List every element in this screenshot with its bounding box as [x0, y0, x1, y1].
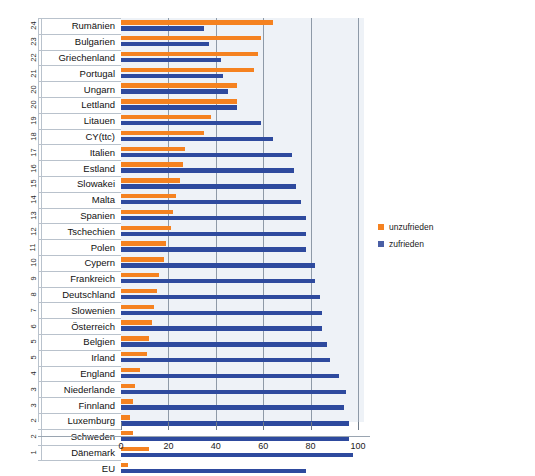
row-bars [121, 381, 535, 397]
bar-unzufrieden [121, 99, 237, 103]
category-label: Niederlande [44, 381, 118, 397]
bar-unzufrieden [121, 115, 211, 119]
x-tick-label-60: 60 [258, 441, 268, 451]
x-tick-20 [168, 422, 169, 430]
chart-rows: 24Rumänien23Bulgarien22Griechenland21Por… [0, 18, 535, 476]
rank-value: 4 [28, 371, 37, 375]
rank-value: 3 [28, 403, 37, 407]
chart-row: 2Luxemburg [0, 413, 535, 429]
rank-value: 17 [29, 148, 38, 156]
category-label: Litauen [44, 113, 118, 129]
row-bars [121, 176, 535, 192]
bar-zufrieden [121, 153, 292, 157]
chart-row: 3Niederlande [0, 381, 535, 397]
legend-label-unzufrieden: unzufrieden [389, 222, 433, 232]
category-label: Malta [44, 192, 118, 208]
rank-column-separator [41, 160, 42, 176]
bar-unzufrieden [121, 131, 204, 135]
row-bars [121, 445, 535, 461]
chart-row: 7Slowenien [0, 302, 535, 318]
row-bars [121, 97, 535, 113]
rank-column-separator [41, 113, 42, 129]
rank-column-separator [41, 81, 42, 97]
category-label: Slowenien [44, 302, 118, 318]
category-label: Spanien [44, 208, 118, 224]
rank-value: 15 [29, 180, 38, 188]
bar-zufrieden [121, 26, 204, 30]
rank-column-separator [41, 176, 42, 192]
bar-zufrieden [121, 405, 344, 409]
bar-unzufrieden [121, 368, 140, 372]
rank-cell: 24 [25, 18, 41, 34]
row-bars [121, 192, 535, 208]
bar-zufrieden [121, 200, 301, 204]
chart-row: 12Tschechien [0, 223, 535, 239]
rank-cell: 14 [25, 192, 41, 208]
category-label: Lettland [44, 97, 118, 113]
rank-column-separator [41, 50, 42, 66]
rank-value: 13 [29, 211, 38, 219]
chart-row: 21Portugal [0, 65, 535, 81]
rank-cell: 17 [25, 144, 41, 160]
rank-cell: 16 [25, 160, 41, 176]
rank-value: 2 [28, 435, 37, 439]
rank-column-separator [41, 223, 42, 239]
rank-value: 22 [29, 53, 38, 61]
rank-cell: 2 [25, 413, 41, 429]
bar-zufrieden [121, 358, 330, 362]
x-tick-100 [358, 422, 359, 430]
rank-cell: 22 [25, 50, 41, 66]
bar-zufrieden [121, 89, 228, 93]
rank-cell: 9 [25, 271, 41, 287]
x-tick-60 [263, 422, 264, 430]
legend-swatch-zufrieden-icon [378, 241, 384, 247]
chart-row: 19Litauen [0, 113, 535, 129]
row-bars [121, 350, 535, 366]
chart-row: 18CY(ttc) [0, 129, 535, 145]
rank-value: 19 [29, 117, 38, 125]
chart-row: 4England [0, 366, 535, 382]
rank-value: 23 [29, 38, 38, 46]
bar-unzufrieden [121, 431, 133, 435]
chart-row: 8Deutschland [0, 287, 535, 303]
chart-row: 23Bulgarien [0, 34, 535, 50]
bar-zufrieden [121, 279, 315, 283]
bar-zufrieden [121, 326, 322, 330]
bar-unzufrieden [121, 257, 164, 261]
rank-cell: 19 [25, 113, 41, 129]
x-tick-label-40: 40 [211, 441, 221, 451]
bar-zufrieden [121, 121, 261, 125]
rank-column-separator [41, 271, 42, 287]
rank-value: 5 [28, 356, 37, 360]
x-tick-label-80: 80 [306, 441, 316, 451]
row-bars [121, 287, 535, 303]
rank-value: 2 [28, 419, 37, 423]
bar-zufrieden [121, 232, 306, 236]
bar-zufrieden [121, 168, 294, 172]
row-bars [121, 113, 535, 129]
chart-row: 5Belgien [0, 334, 535, 350]
bar-zufrieden [121, 42, 209, 46]
bar-unzufrieden [121, 147, 185, 151]
category-label: Estland [44, 160, 118, 176]
rank-cell: 8 [25, 287, 41, 303]
rank-value: 24 [29, 22, 38, 30]
chart-row: 9Frankreich [0, 271, 535, 287]
bar-zufrieden [121, 421, 349, 425]
rank-column-separator [41, 287, 42, 303]
x-axis-line [38, 436, 370, 437]
row-bars [121, 129, 535, 145]
rank-value: 21 [29, 69, 38, 77]
bar-unzufrieden [121, 305, 154, 309]
bar-unzufrieden [121, 336, 149, 340]
rank-value: 14 [29, 195, 38, 203]
category-label: Dänemark [44, 445, 118, 461]
category-label: CY(ttc) [44, 129, 118, 145]
legend-item-unzufrieden: unzufrieden [378, 222, 433, 232]
rank-column-separator [41, 445, 42, 461]
category-label: England [44, 366, 118, 382]
x-tick-label-100: 100 [350, 441, 365, 451]
rank-cell: 5 [25, 334, 41, 350]
rank-cell: 23 [25, 34, 41, 50]
row-bars [121, 208, 535, 224]
